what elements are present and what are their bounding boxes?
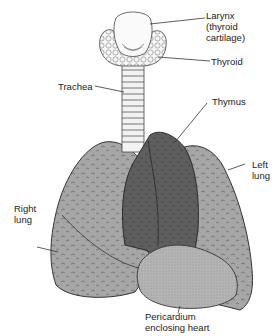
trachea-label: Trachea	[58, 81, 93, 92]
pericardium-label: Pericardium enclosing heart	[145, 311, 209, 333]
left-lung-label: Left lung	[252, 159, 270, 181]
right-lung-label: Right lung	[14, 203, 36, 225]
larynx-label: Larynx (thyroid cartilage)	[206, 10, 245, 43]
thoracic-organs-diagram	[0, 0, 279, 336]
thymus-label: Thymus	[212, 96, 246, 107]
trachea	[122, 60, 144, 152]
thyroid-label: Thyroid	[211, 56, 243, 67]
